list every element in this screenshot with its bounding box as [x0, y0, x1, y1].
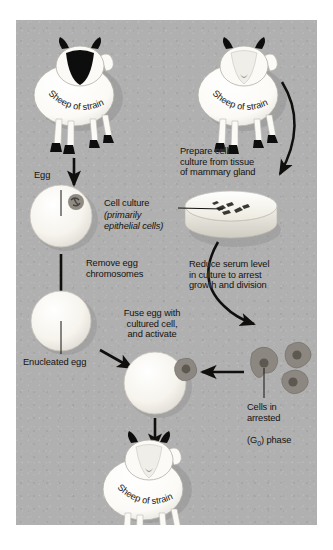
- label-cells-in-arrested-3: (G0) phase: [247, 424, 291, 449]
- g0-prefix: (G: [247, 435, 257, 445]
- label-prepare-cell-culture: Prepare cell culture from tissue of mamm…: [180, 146, 255, 178]
- label-cells-in-arrested-2: arrested: [247, 413, 280, 424]
- clone-sheep-of-strain-b-illustration: [103, 431, 192, 525]
- label-cell-culture-detail-2: epithelial cells): [104, 221, 163, 232]
- enucleated-egg-illustration: [31, 291, 97, 355]
- fused-cell-illustration: [124, 352, 197, 418]
- label-enucleated-egg: Enucleated egg: [23, 357, 86, 368]
- label-cell-culture: Cell culture: [104, 198, 149, 209]
- label-cells-in-arrested-1: Cells in: [247, 402, 277, 413]
- arrow-enucleated-to-fused: [100, 350, 132, 368]
- petri-dish-illustration: [185, 191, 281, 247]
- label-egg: Egg: [34, 170, 50, 181]
- arrested-g0-cells-illustration: [251, 342, 312, 394]
- g0-suffix: ) phase: [261, 435, 291, 445]
- label-remove-egg-chromosomes: Remove egg chromosomes: [86, 258, 143, 279]
- label-fuse-egg: Fuse egg with cultured cell, and activat…: [114, 308, 190, 340]
- egg-cell-illustration: [30, 185, 98, 251]
- diagram-panel: Sheep of strain A Sheep of strain B Shee…: [16, 20, 317, 525]
- label-reduce-serum: Reduce serum level in culture to arrest …: [189, 259, 269, 291]
- figure-root: Sheep of strain A Sheep of strain B Shee…: [0, 0, 333, 550]
- diagram-artwork: Sheep of strain A Sheep of strain B Shee…: [16, 20, 317, 525]
- label-cell-culture-detail-1: (primarily: [104, 210, 141, 221]
